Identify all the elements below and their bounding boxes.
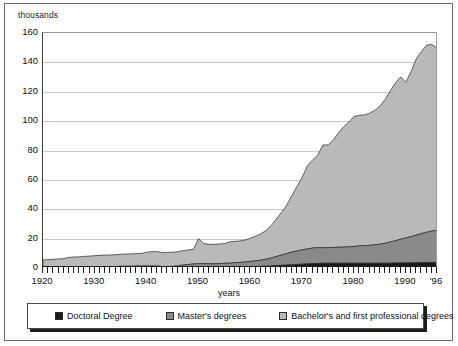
x-axis-tick bbox=[198, 267, 199, 273]
x-axis-tick bbox=[135, 267, 136, 273]
x-axis-tick bbox=[229, 267, 230, 273]
x-axis-tick bbox=[306, 267, 307, 273]
x-axis-tick bbox=[125, 267, 126, 273]
legend-swatch-icon bbox=[55, 312, 63, 320]
y-axis-tick-label: 20 bbox=[27, 232, 38, 243]
x-axis-tick bbox=[223, 267, 224, 273]
x-axis-tick bbox=[52, 267, 53, 273]
x-axis-tick bbox=[203, 267, 204, 273]
x-axis-tick bbox=[348, 267, 349, 273]
x-axis-tick bbox=[120, 267, 121, 273]
legend-label: Bachelor's and first professional degree… bbox=[291, 311, 453, 321]
x-axis-tick bbox=[58, 267, 59, 273]
legend-swatch-icon bbox=[279, 312, 287, 320]
x-axis-tick bbox=[395, 267, 396, 273]
x-axis-tick bbox=[332, 267, 333, 273]
x-axis-tick bbox=[338, 267, 339, 273]
plot-area bbox=[42, 32, 437, 267]
x-axis-tick bbox=[389, 267, 390, 273]
x-axis-tick bbox=[353, 267, 354, 273]
area-band bbox=[43, 45, 437, 267]
x-axis-tick bbox=[218, 267, 219, 273]
x-axis-tick bbox=[192, 267, 193, 273]
x-axis-tick bbox=[317, 267, 318, 273]
legend-swatch-icon bbox=[166, 312, 174, 320]
legend-item: Bachelor's and first professional degree… bbox=[279, 311, 453, 321]
x-axis-tick bbox=[172, 267, 173, 273]
x-axis-tick bbox=[255, 267, 256, 273]
y-axis-tick-label: 120 bbox=[22, 85, 38, 96]
x-axis-tick bbox=[400, 267, 401, 273]
legend-label: Doctoral Degree bbox=[67, 311, 133, 321]
x-axis-tick bbox=[291, 267, 292, 273]
y-axis-tick-label: 60 bbox=[27, 173, 38, 184]
x-axis-tick bbox=[358, 267, 359, 273]
x-axis-tick bbox=[182, 267, 183, 273]
x-axis-tick-label: 1930 bbox=[83, 275, 104, 286]
legend-item: Doctoral Degree bbox=[55, 311, 133, 321]
x-axis-tick bbox=[42, 267, 43, 273]
x-axis-tick bbox=[177, 267, 178, 273]
x-axis-tick bbox=[363, 267, 364, 273]
x-axis-tick bbox=[384, 267, 385, 273]
x-axis-tick bbox=[280, 267, 281, 273]
x-axis-tick-label: 1940 bbox=[135, 275, 156, 286]
x-axis-tick-label: 1980 bbox=[342, 275, 363, 286]
x-axis-tick-labels: 19201930194019501960197019801990'96 bbox=[0, 275, 458, 289]
y-axis-tick-label: 140 bbox=[22, 55, 38, 66]
x-axis-tick-marks bbox=[42, 267, 438, 274]
x-axis-tick bbox=[94, 267, 95, 273]
x-axis-tick bbox=[379, 267, 380, 273]
x-axis-tick bbox=[151, 267, 152, 273]
legend-item: Master's degrees bbox=[166, 311, 247, 321]
x-axis-title: years bbox=[0, 288, 458, 298]
x-axis-tick bbox=[431, 267, 432, 273]
y-axis-unit-label: thousands bbox=[18, 10, 58, 20]
x-axis-tick bbox=[343, 267, 344, 273]
x-axis-tick bbox=[234, 267, 235, 273]
x-axis-tick bbox=[270, 267, 271, 273]
x-axis-tick bbox=[187, 267, 188, 273]
x-axis-tick bbox=[296, 267, 297, 273]
legend-label: Master's degrees bbox=[178, 311, 247, 321]
y-axis-tick-label: 40 bbox=[27, 202, 38, 213]
x-axis-tick bbox=[130, 267, 131, 273]
chart-figure: thousands 160140120100806040200 19201930… bbox=[0, 0, 458, 346]
x-axis-tick bbox=[410, 267, 411, 273]
x-axis-tick bbox=[156, 267, 157, 273]
x-axis-tick bbox=[68, 267, 69, 273]
x-axis-tick bbox=[426, 267, 427, 273]
y-axis-tick-label: 100 bbox=[22, 114, 38, 125]
x-axis-tick-label: 1950 bbox=[187, 275, 208, 286]
y-axis-tick-label: 160 bbox=[22, 26, 38, 37]
x-axis-tick bbox=[436, 267, 437, 273]
x-axis-tick bbox=[369, 267, 370, 273]
x-axis-tick bbox=[312, 267, 313, 273]
x-axis-tick bbox=[420, 267, 421, 273]
x-axis-tick bbox=[161, 267, 162, 273]
x-axis-tick bbox=[249, 267, 250, 273]
x-axis-tick bbox=[99, 267, 100, 273]
x-axis-tick bbox=[327, 267, 328, 273]
x-axis-tick bbox=[260, 267, 261, 273]
x-axis-tick bbox=[146, 267, 147, 273]
x-axis-tick bbox=[244, 267, 245, 273]
x-axis-tick-label: 1960 bbox=[239, 275, 260, 286]
x-axis-tick bbox=[275, 267, 276, 273]
x-axis-tick bbox=[286, 267, 287, 273]
x-axis-tick bbox=[166, 267, 167, 273]
x-axis-tick bbox=[73, 267, 74, 273]
x-axis-tick bbox=[78, 267, 79, 273]
x-axis-tick bbox=[141, 267, 142, 273]
x-axis-tick bbox=[322, 267, 323, 273]
x-axis-tick bbox=[115, 267, 116, 273]
x-axis-tick bbox=[239, 267, 240, 273]
x-axis-tick bbox=[89, 267, 90, 273]
x-axis-tick bbox=[213, 267, 214, 273]
y-axis-tick-label: 0 bbox=[33, 261, 38, 272]
y-axis-tick-labels: 160140120100806040200 bbox=[0, 32, 38, 267]
x-axis-tick bbox=[47, 267, 48, 273]
x-axis-tick-label: 1990 bbox=[394, 275, 415, 286]
x-axis-tick bbox=[83, 267, 84, 273]
x-axis-tick bbox=[415, 267, 416, 273]
